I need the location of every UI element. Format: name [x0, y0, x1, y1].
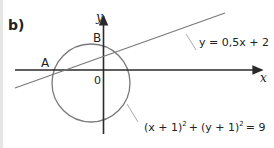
point-b-label: B [93, 31, 101, 45]
x-axis-label: x [260, 71, 267, 85]
part-label: b) [8, 17, 24, 33]
origin-label: 0 [94, 74, 101, 87]
y-axis-label: y [95, 10, 103, 24]
line-equation: y = 0,5x + 2 [199, 36, 269, 49]
diagram: b) y x 0 A B y = 0,5x + 2 (x + 1)2+(y + … [0, 0, 274, 148]
line-graph [15, 13, 225, 88]
point-a-label: A [41, 56, 50, 70]
line-leader [186, 34, 196, 50]
svg-text:(x + 1)2+(y + 1)2= 9: (x + 1)2+(y + 1)2= 9 [144, 120, 266, 134]
circle [52, 44, 130, 122]
circle-leader [127, 104, 138, 122]
circle-equation: (x + 1)2+(y + 1)2= 9 [144, 120, 266, 134]
